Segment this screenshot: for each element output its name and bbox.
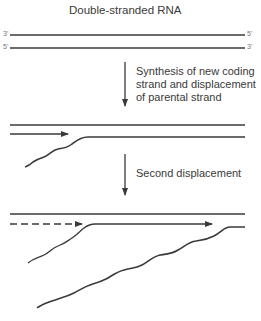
displaced-strand-wavy bbox=[37, 227, 245, 308]
rna-replication-diagram bbox=[0, 0, 261, 321]
displaced-parental-strand bbox=[25, 137, 245, 167]
second-new-strand bbox=[28, 224, 212, 263]
